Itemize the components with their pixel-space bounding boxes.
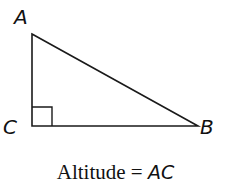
caption-prefix: Altitude = <box>57 160 148 184</box>
vertex-label-c: C <box>3 115 17 139</box>
vertex-label-a: A <box>12 5 28 29</box>
right-angle-marker <box>32 107 52 126</box>
vertex-label-b: B <box>200 115 214 139</box>
triangle-abc <box>32 34 198 126</box>
caption-segment: AC <box>148 161 174 183</box>
caption: Altitude = AC <box>0 160 231 185</box>
triangle-diagram: A C B <box>0 0 231 186</box>
